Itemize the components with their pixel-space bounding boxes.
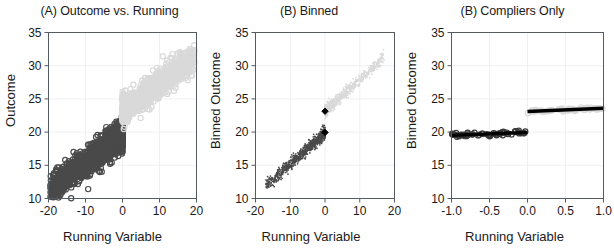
panel-binned: (B) Binned Binned Outcome 101520253035-2… [205, 0, 401, 252]
svg-text:0.5: 0.5 [557, 204, 574, 218]
svg-text:0: 0 [322, 204, 329, 218]
panel-compliers-only: (B) Compliers Only Binned Outcome 101520… [401, 0, 614, 252]
svg-text:30: 30 [28, 59, 42, 73]
svg-text:15: 15 [431, 158, 445, 172]
svg-text:20: 20 [235, 125, 249, 139]
svg-text:-1.0: -1.0 [441, 204, 462, 218]
svg-text:-20: -20 [40, 204, 58, 218]
svg-text:0: 0 [119, 204, 126, 218]
svg-text:25: 25 [28, 92, 42, 106]
panel-a-x-axis-label: Running Variable [0, 229, 205, 244]
svg-text:25: 25 [235, 92, 249, 106]
panel-b-plot: 101520253035-20-1001020 [205, 0, 401, 252]
svg-text:25: 25 [431, 92, 445, 106]
svg-text:35: 35 [235, 26, 249, 40]
svg-text:15: 15 [28, 158, 42, 172]
svg-text:20: 20 [431, 125, 445, 139]
svg-text:35: 35 [28, 26, 42, 40]
panel-a-plot: 101520253035-20-1001020 [0, 0, 205, 252]
panel-c-x-axis-label: Running Variable [401, 229, 614, 244]
svg-text:10: 10 [353, 204, 367, 218]
svg-text:-0.5: -0.5 [479, 204, 500, 218]
svg-text:10: 10 [153, 204, 167, 218]
svg-text:30: 30 [235, 59, 249, 73]
svg-text:20: 20 [28, 125, 42, 139]
svg-text:15: 15 [235, 158, 249, 172]
svg-text:-20: -20 [247, 204, 265, 218]
svg-text:0.0: 0.0 [519, 204, 536, 218]
svg-text:1.0: 1.0 [595, 204, 612, 218]
svg-text:-10: -10 [282, 204, 300, 218]
panel-outcome-vs-running: (A) Outcome vs. Running Outcome 10152025… [0, 0, 205, 252]
svg-text:-10: -10 [77, 204, 95, 218]
panel-b-x-axis-label: Running Variable [205, 229, 401, 244]
figure-container: (A) Outcome vs. Running Outcome 10152025… [0, 0, 614, 252]
panel-c-plot: 101520253035-1.0-0.50.00.51.0 [401, 0, 614, 252]
svg-text:20: 20 [190, 204, 204, 218]
svg-text:35: 35 [431, 26, 445, 40]
svg-text:20: 20 [388, 204, 401, 218]
svg-text:30: 30 [431, 59, 445, 73]
